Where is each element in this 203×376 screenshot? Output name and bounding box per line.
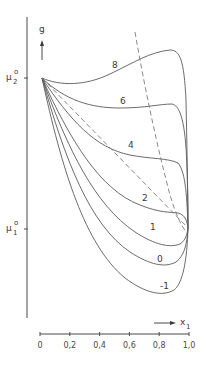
curve-minus-1 [42, 78, 188, 293]
curve-1 [42, 78, 188, 246]
x-tick-label-0-6: 0,6 [123, 341, 136, 350]
svg-text:1: 1 [13, 229, 17, 237]
ideal-dashed-line [42, 78, 188, 228]
x-tick-label-1-0: 1,0 [183, 341, 196, 350]
svg-text:o: o [14, 219, 18, 227]
svg-text:μ: μ [6, 223, 12, 233]
x-arrowhead-icon [170, 321, 176, 325]
svg-text:2: 2 [13, 78, 17, 86]
curve-label-6: 6 [120, 96, 126, 106]
x-tick-label-0: 0 [37, 341, 42, 350]
svg-text:1: 1 [186, 323, 190, 331]
mu1-label: μ 1 o [6, 219, 18, 237]
curve-label-8: 8 [112, 60, 118, 70]
curve-label-1: 1 [150, 222, 156, 232]
curve-label-minus-1: -1 [160, 281, 169, 291]
curve-label-4: 4 [128, 140, 134, 150]
curve-8 [42, 50, 188, 228]
x-axis-label: x 1 [180, 317, 190, 331]
x-tick-label-0-4: 0,4 [93, 341, 106, 350]
curve-label-2: 2 [142, 193, 148, 203]
x-tick-label-0-2: 0,2 [63, 341, 76, 350]
x-tick-label-0-8: 0,8 [153, 341, 166, 350]
y-arrowhead-icon [40, 40, 44, 46]
y-axis-label: g [39, 24, 45, 34]
svg-text:μ: μ [6, 72, 12, 82]
curve-0 [42, 78, 188, 265]
mu2-label: μ 2 o [6, 68, 18, 86]
svg-text:o: o [14, 68, 18, 76]
gibbs-energy-diagram: g μ 2 o μ 1 o 8 6 4 2 1 0 -1 [0, 0, 203, 376]
curve-label-0: 0 [157, 254, 163, 264]
